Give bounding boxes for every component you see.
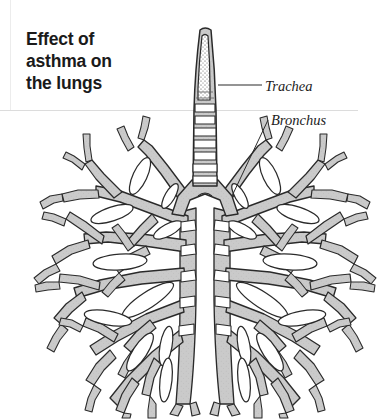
label-trachea: Trachea — [265, 78, 313, 95]
label-bronchus: Bronchus — [271, 112, 326, 129]
left-lung-bronchial-tree — [34, 116, 200, 418]
right-lung-bronchial-tree — [210, 116, 376, 418]
trachea-cartilage-rings — [193, 104, 217, 183]
asthma-lungs-figure: Effect of asthma on the lungs Trachea Br… — [0, 0, 384, 419]
trachea — [193, 28, 217, 186]
figure-title: Effect of asthma on the lungs — [26, 28, 176, 94]
